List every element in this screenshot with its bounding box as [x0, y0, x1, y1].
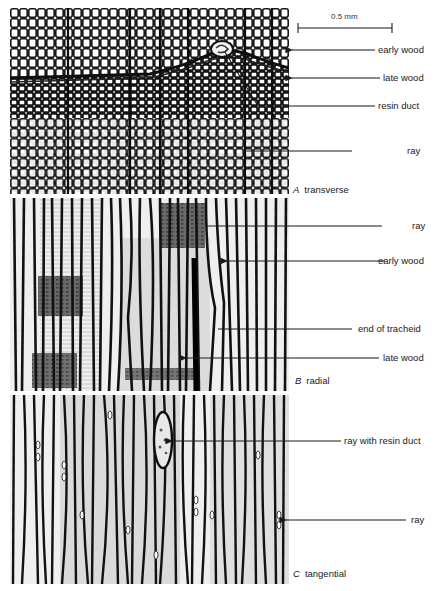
caption-a-name: transverse	[304, 184, 348, 195]
caption-b: Bradial	[295, 375, 330, 386]
tangential-tracheid-lines	[10, 395, 289, 584]
panel-a-transverse-micrograph	[10, 8, 289, 194]
caption-c-letter: C	[293, 568, 300, 579]
label-b-end-of-tracheid: end of tracheid	[358, 323, 421, 334]
radial-tracheid-lines	[10, 198, 289, 391]
label-c-ray: ray	[411, 514, 424, 525]
caption-a-letter: A	[293, 184, 299, 195]
label-b-late-wood: late wood	[383, 352, 424, 363]
label-a-resin-duct: resin duct	[378, 100, 419, 111]
transverse-cell-grid	[10, 8, 289, 194]
scale-bar-label: 0.5 mm	[331, 12, 358, 21]
panel-b-radial-micrograph	[10, 198, 289, 391]
caption-c: Ctangential	[293, 568, 346, 579]
caption-b-name: radial	[306, 375, 329, 386]
label-a-late-wood: late wood	[383, 72, 424, 83]
label-a-early-wood: early wood	[378, 44, 424, 55]
label-c-ray-with-resin-duct: ray with resin duct	[344, 435, 421, 446]
panel-c-tangential-micrograph	[10, 395, 289, 584]
label-a-ray: ray	[407, 145, 420, 156]
caption-c-name: tangential	[305, 568, 346, 579]
caption-a: Atransverse	[293, 184, 349, 195]
caption-b-letter: B	[295, 375, 301, 386]
label-b-early-wood: early wood	[378, 255, 424, 266]
label-b-ray: ray	[412, 220, 425, 231]
